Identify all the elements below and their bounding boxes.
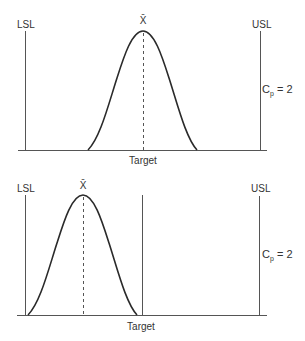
lsl-label: LSL	[17, 183, 35, 194]
panel-centered: LSL USL X̄ Target Cp = 2	[17, 14, 293, 166]
cp-label: Cp = 2	[262, 248, 293, 263]
mean-label: X̄	[80, 179, 87, 191]
lsl-label: LSL	[17, 19, 35, 30]
distribution-curve	[88, 31, 197, 150]
cp-label: Cp = 2	[262, 83, 293, 98]
usl-label: USL	[251, 183, 271, 194]
target-label: Target	[127, 321, 155, 332]
cp-diagram: LSL USL X̄ Target Cp = 2 LSL USL X̄ Targ…	[0, 0, 305, 341]
distribution-curve	[28, 195, 137, 315]
panel-shifted: LSL USL X̄ Target Cp = 2	[17, 179, 293, 332]
usl-label: USL	[252, 19, 272, 30]
target-label: Target	[129, 155, 157, 166]
mean-label: X̄	[140, 14, 147, 26]
